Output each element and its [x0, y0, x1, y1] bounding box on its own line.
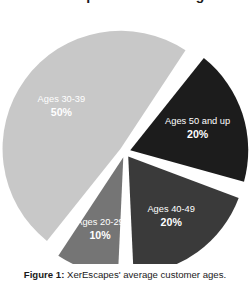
pie-slice-value: 20% [187, 128, 209, 140]
pie-slice-value: 50% [51, 106, 73, 118]
figure-caption: Figure 1: XerEscapes' average customer a… [0, 268, 250, 281]
pie-slices-group [3, 31, 249, 264]
pie-slice-label: Ages 30-39 [38, 94, 86, 104]
pie-slice-label: Ages 20-29 [76, 217, 124, 227]
pie-slice-label: Ages 40-49 [147, 204, 195, 214]
chart-title-text: XerEscapes Customer Ages [29, 0, 220, 3]
figure-caption-label: Figure 1: [24, 269, 65, 280]
pie-slice-value: 20% [161, 216, 183, 228]
pie-slice-value: 10% [89, 229, 111, 241]
pie-slice-label: Ages 50 and up [165, 116, 230, 126]
figure-caption-text: XerEscapes' average customer ages. [67, 269, 226, 280]
figure-container: XerEscapes Customer Ages Ages 40-4920%Ag… [0, 0, 250, 296]
pie-chart: Ages 40-4920%Ages 20-2910%Ages 30-3950%A… [0, 6, 250, 264]
pie-chart-svg: Ages 40-4920%Ages 20-2910%Ages 30-3950%A… [0, 6, 250, 264]
